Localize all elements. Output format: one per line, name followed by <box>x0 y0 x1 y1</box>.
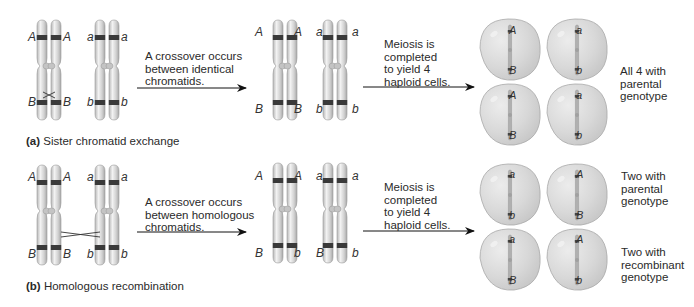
chromosome-pair-ab-before: a a b b <box>87 165 128 265</box>
svg-text:a: a <box>576 89 582 101</box>
diagram-canvas: A A B B a a b b A A B B a a b b <box>0 0 694 307</box>
svg-text:A: A <box>62 30 71 44</box>
haploid-cell: A B <box>480 19 540 80</box>
svg-text:A: A <box>508 89 516 101</box>
text-line: recombinant <box>621 259 684 272</box>
svg-text:B: B <box>255 246 263 260</box>
svg-text:B: B <box>294 102 302 116</box>
svg-text:a: a <box>121 170 128 184</box>
text-line: to yield 4 <box>384 63 450 76</box>
text-line: genotype <box>621 271 684 284</box>
text-line: A crossover occurs <box>145 50 242 63</box>
svg-text:a: a <box>509 168 515 180</box>
svg-text:a: a <box>316 25 323 39</box>
text-line: chromatids. <box>145 75 242 88</box>
result-label-recombinant-b: Two with recombinant genotype <box>621 246 684 284</box>
svg-text:b: b <box>352 246 359 260</box>
svg-text:A: A <box>27 30 36 44</box>
chromosome-pair-ab-after: a a b b <box>316 20 359 120</box>
text-line: Meiosis is <box>384 181 450 194</box>
svg-text:b: b <box>509 209 515 221</box>
panel-caption-b: (b) Homologous recombination <box>26 280 184 292</box>
text-line: Two with <box>621 246 684 259</box>
svg-text:b: b <box>87 247 94 261</box>
svg-text:a: a <box>316 169 323 183</box>
haploid-cell: A B <box>547 164 607 225</box>
text-line: completed <box>384 51 450 64</box>
text-line: parental <box>620 78 667 91</box>
text-line: A crossover occurs <box>145 196 254 209</box>
panel-b: A A B B a a b b A A B b a a B <box>27 163 607 290</box>
svg-text:a: a <box>509 233 515 245</box>
svg-text:B: B <box>509 129 516 141</box>
svg-text:A: A <box>575 168 583 180</box>
text-line: to yield 4 <box>384 206 450 219</box>
svg-text:a: a <box>87 170 94 184</box>
step1-description-b: A crossover occurs between homologous ch… <box>145 196 254 234</box>
text-line: Meiosis is <box>384 38 450 51</box>
caption-label: (b) <box>26 280 41 292</box>
text-line: genotype <box>621 195 668 208</box>
result-label-parental-b: Two with parental genotype <box>621 170 668 208</box>
haploid-cell: A B <box>480 84 540 145</box>
text-line: haploid cells. <box>384 76 450 89</box>
svg-text:b: b <box>121 247 128 261</box>
result-label-a: All 4 with parental genotype <box>620 65 667 103</box>
panel-a: A A B B a a b b A A B B a a b b <box>27 19 607 145</box>
step1-description-a: A crossover occurs between identical chr… <box>145 50 242 88</box>
svg-text:b: b <box>576 274 582 286</box>
svg-text:b: b <box>576 129 582 141</box>
text-line: haploid cells. <box>384 219 450 232</box>
svg-text:A: A <box>62 170 71 184</box>
svg-text:A: A <box>575 233 583 245</box>
text-line: chromatids. <box>145 221 254 234</box>
chromosome-pair-AB-after: A A B B <box>254 20 302 120</box>
svg-text:b: b <box>87 95 94 109</box>
haploid-cell: a b <box>480 164 540 225</box>
svg-text:a: a <box>87 30 94 44</box>
svg-text:a: a <box>576 24 582 36</box>
crossover-icon <box>61 232 100 237</box>
svg-text:b: b <box>352 102 359 116</box>
caption-label: (a) <box>26 135 40 147</box>
svg-text:B: B <box>255 102 263 116</box>
text-line: parental <box>621 183 668 196</box>
step2-description-a: Meiosis is completed to yield 4 haploid … <box>384 38 450 88</box>
svg-text:A: A <box>293 25 302 39</box>
chromosome-pair-Ab-after: A A B b <box>254 163 302 263</box>
text-line: completed <box>384 194 450 207</box>
chromosome-pair-AB-before: A A B B <box>27 165 71 265</box>
svg-text:b: b <box>576 64 582 76</box>
step2-description-b: Meiosis is completed to yield 4 haploid … <box>384 181 450 231</box>
svg-text:B: B <box>509 274 516 286</box>
text-line: genotype <box>620 90 667 103</box>
svg-text:A: A <box>254 25 263 39</box>
text-line: between homologous <box>145 209 254 222</box>
svg-text:b: b <box>316 102 323 116</box>
svg-text:B: B <box>63 247 71 261</box>
svg-text:A: A <box>27 170 36 184</box>
text-line: Two with <box>621 170 668 183</box>
chromosome-pair-ab-before: a a b b <box>87 20 128 120</box>
haploid-cell: a b <box>547 84 607 145</box>
svg-text:B: B <box>316 246 324 260</box>
svg-text:B: B <box>509 64 516 76</box>
haploid-cell: a B <box>480 229 540 290</box>
svg-text:A: A <box>508 24 516 36</box>
svg-text:B: B <box>63 95 71 109</box>
svg-text:B: B <box>28 247 36 261</box>
haploid-cell: a b <box>547 19 607 80</box>
haploid-cell: A b <box>547 229 607 290</box>
panel-caption-a: (a) Sister chromatid exchange <box>26 135 179 147</box>
chromosome-pair-aB-after: a a B b <box>316 163 359 263</box>
caption-text: Sister chromatid exchange <box>43 135 179 147</box>
svg-text:b: b <box>294 246 301 260</box>
svg-text:a: a <box>121 30 128 44</box>
caption-text: Homologous recombination <box>44 280 184 292</box>
svg-text:b: b <box>121 95 128 109</box>
text-line: All 4 with <box>620 65 667 78</box>
text-line: between identical <box>145 63 242 76</box>
svg-text:B: B <box>28 95 36 109</box>
svg-text:A: A <box>293 169 302 183</box>
svg-text:a: a <box>352 25 359 39</box>
